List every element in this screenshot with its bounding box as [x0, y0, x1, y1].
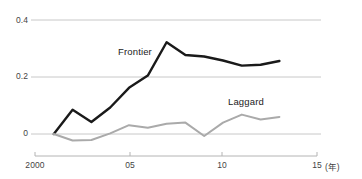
x-tick-label-10: 10	[207, 160, 237, 170]
chart-plot-area	[0, 0, 362, 179]
y-tick-label-02: 0.2	[2, 71, 28, 81]
y-tick-label-04: 0.4	[2, 15, 28, 25]
x-tick-label-05: 05	[115, 160, 145, 170]
series-label-frontier: Frontier	[118, 46, 152, 57]
x-axis-ticks	[35, 152, 317, 156]
line-chart: 0.4 0.2 0 2000 05 10 15 (年) Frontier Lag…	[0, 0, 362, 179]
data-series	[54, 42, 280, 140]
series-label-laggard: Laggard	[228, 96, 264, 107]
x-tick-label-2000: 2000	[20, 160, 50, 170]
x-axis-unit-label: (年)	[325, 160, 340, 172]
y-tick-label-0: 0	[2, 128, 28, 138]
